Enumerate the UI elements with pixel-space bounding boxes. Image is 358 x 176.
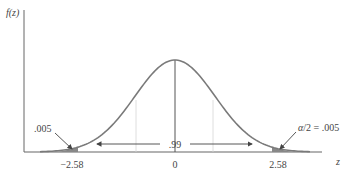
left-tail-arrow bbox=[55, 133, 72, 149]
y-axis-label: f(z) bbox=[6, 7, 20, 19]
tick-center: 0 bbox=[173, 159, 178, 170]
center-area-label: .99 bbox=[169, 139, 182, 150]
x-axis-label: z bbox=[335, 156, 340, 167]
chart-canvas: .99 f(z) z −2.58 0 2.58 .005 α/2 = .005 bbox=[0, 0, 358, 176]
tick-right: 2.58 bbox=[269, 159, 287, 170]
left-tail-label: .005 bbox=[34, 123, 52, 134]
tick-left: −2.58 bbox=[60, 159, 83, 170]
normal-distribution-chart: .99 f(z) z −2.58 0 2.58 .005 α/2 = .005 bbox=[0, 0, 358, 176]
right-tail-label: α/2 = .005 bbox=[298, 122, 339, 133]
right-tail-arrow bbox=[280, 132, 296, 149]
